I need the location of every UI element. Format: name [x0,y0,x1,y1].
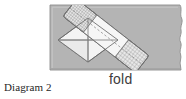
figure-page: fold Diagram 2 [0,0,186,99]
figure-caption: Diagram 2 [4,81,52,94]
fold-label: fold [109,71,132,87]
